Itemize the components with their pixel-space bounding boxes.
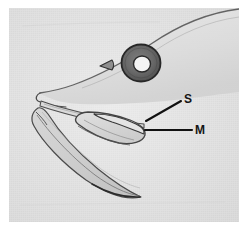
figure-root: S M xyxy=(0,0,239,233)
scan-smudge-2 xyxy=(20,202,225,205)
eye-pupil xyxy=(134,56,151,72)
fish-head-drawing xyxy=(0,0,239,233)
nostril-shape xyxy=(100,60,114,70)
leader-line-supramaxilla xyxy=(146,101,181,121)
eye-group xyxy=(122,45,161,82)
label-maxilla: M xyxy=(195,124,205,136)
label-supramaxilla: S xyxy=(184,93,192,105)
maxilla-region-group xyxy=(76,112,145,145)
nostril-group xyxy=(100,60,114,70)
scan-smudge-1 xyxy=(22,22,160,26)
